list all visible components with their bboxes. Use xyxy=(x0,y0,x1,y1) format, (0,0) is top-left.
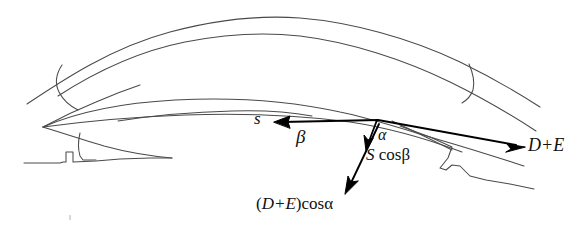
label-decosa-symbol: D+E xyxy=(262,194,296,213)
vector-s-shaft xyxy=(282,120,378,122)
label-d-plus-e: D+E xyxy=(528,136,564,154)
label-s-cos-beta: S cosβ xyxy=(366,146,410,163)
label-s: s xyxy=(254,110,261,127)
figure-root: s β α S cosβ D+E (D+E)cosα xyxy=(0,0,587,235)
outline-drawing xyxy=(24,17,540,189)
vector-s-arrowhead xyxy=(274,116,290,128)
label-s-cos-beta-text: cosβ xyxy=(375,145,411,164)
right-arch-cap xyxy=(462,64,474,103)
label-s-cos-beta-symbol: S xyxy=(366,145,375,164)
vector-d-plus-e-arrowhead xyxy=(506,144,525,152)
lower-left-wedge-body xyxy=(79,133,97,160)
scan-speck xyxy=(69,215,71,220)
label-d-plus-e-cos-alpha: (D+E)cosα xyxy=(256,195,333,212)
label-decosa-text: )cosα xyxy=(296,194,333,213)
vector-d-plus-e-cos-alpha-arrowhead xyxy=(345,176,358,194)
left-arch-cap xyxy=(57,65,78,110)
outer-arch-curve xyxy=(27,17,540,107)
vector-d-plus-e-shaft xyxy=(378,120,516,145)
base-line-left xyxy=(24,152,172,163)
label-alpha: α xyxy=(378,127,386,143)
label-beta: β xyxy=(296,127,305,146)
lower-left-wedge-top xyxy=(43,127,172,158)
